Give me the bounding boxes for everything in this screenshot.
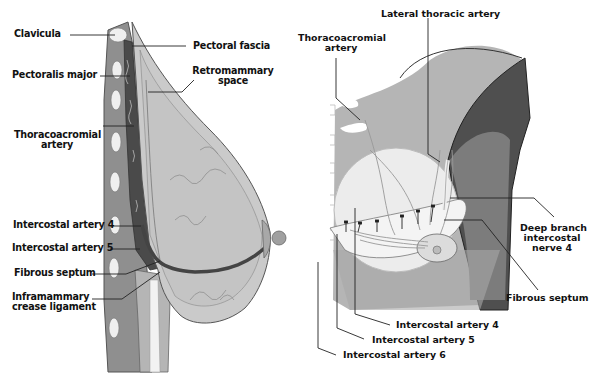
label-fibrous-septum-right: Fibrous septum [506,293,589,303]
label-inframammary-crease-ligament: Inframammary crease ligament [12,292,96,312]
label-lateral-thoracic-artery: Lateral thoracic artery [381,9,500,19]
label-line: artery [14,140,100,150]
label-intercostal-artery-4-left: Intercostal artery 4 [13,220,114,230]
label-line: nerve 4 [520,243,584,253]
label-intercostal-artery-5-left: Intercostal artery 5 [12,243,113,253]
label-retromammary-space: Retromammary space [190,66,276,86]
label-clavicula: Clavicula [14,29,61,39]
label-intercostal-artery-4-right: Intercostal artery 4 [396,320,499,330]
right-anterior-view [318,18,554,355]
label-line: space [190,76,276,86]
label-intercostal-artery-5-right: Intercostal artery 5 [372,335,475,345]
label-pectoral-fascia: Pectoral fascia [193,41,270,51]
label-thoracoacromial-artery-left: Thoracoacromial artery [14,130,100,150]
nipple [433,246,441,254]
label-thoracoacromial-artery-right: Thoracoacromial artery [298,33,384,53]
nipple [272,231,286,245]
label-intercostal-artery-6-right: Intercostal artery 6 [343,350,446,360]
label-line: crease ligament [12,302,96,312]
label-fibrous-septum-left: Fibrous septum [14,268,96,278]
label-deep-branch-intercostal-nerve-4: Deep branch intercostal nerve 4 [520,223,584,253]
label-pectoralis-major: Pectoralis major [12,70,97,80]
label-line: artery [298,43,384,53]
